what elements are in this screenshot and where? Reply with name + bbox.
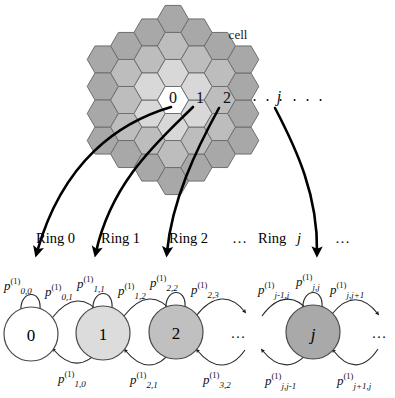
- prob-self-0-sub: 0,0: [20, 286, 32, 296]
- prob-forward-j-jp1-sub: j,j+1: [345, 290, 364, 300]
- prob-backward-2-1-sup: (1): [137, 370, 147, 380]
- arc-backward-3-2: [197, 350, 245, 365]
- prob-backward-jp1-j: p(1)j+1,j: [336, 371, 372, 391]
- prob-forward-jm1-j-sub: j-1,j: [273, 290, 289, 300]
- prob-backward-3-2-sup: (1): [210, 370, 220, 380]
- prob-forward-2-3-sup: (1): [198, 280, 208, 290]
- prob-backward-jp1-j-sup: (1): [344, 371, 354, 381]
- prob-self-2-sup: (1): [157, 273, 167, 283]
- ring-label-2: Ring 2: [169, 230, 208, 246]
- ring-label-j-prefix: Ring: [258, 230, 286, 246]
- prob-backward-j-jm1-sup: (1): [272, 371, 282, 381]
- hex-dots-right: ․ ․ ․: [292, 88, 325, 104]
- chain-node-0-label: 0: [27, 326, 36, 345]
- prob-self-1: p(1)1,1: [76, 274, 105, 294]
- prob-self-j-sup: (1): [303, 272, 313, 282]
- prob-backward-2-1: p(1)2,1: [129, 370, 158, 390]
- prob-self-0-sup: (1): [11, 276, 21, 286]
- prob-backward-1-0-sub: 1,0: [74, 379, 86, 389]
- prob-backward-3-2: p(1)3,2: [202, 370, 231, 390]
- chain-node-j-label: j: [309, 325, 316, 344]
- prob-backward-3-2-sub: 3,2: [218, 380, 231, 390]
- prob-backward-j-jm1-sub: j,j-1: [280, 381, 296, 391]
- prob-forward-0-1: p(1)0,1: [44, 282, 73, 302]
- chain-node-2-label: 2: [172, 324, 181, 343]
- ring-label-trailing-dots: …: [335, 230, 352, 246]
- chain-inter-dots: …: [231, 325, 248, 341]
- arc-backward-jp1-j: [333, 349, 378, 365]
- arc-forward-2-3: [196, 299, 245, 316]
- prob-forward-0-1-sub: 0,1: [61, 292, 72, 302]
- hex-label-j: j: [275, 88, 282, 106]
- hex-label-0: 0: [169, 89, 177, 106]
- hex-label-1: 1: [196, 89, 204, 106]
- prob-forward-2-3: p(1)2,3: [190, 280, 219, 300]
- prob-backward-1-0-sup: (1): [65, 369, 75, 379]
- prob-self-j: p(1)j,j: [295, 272, 320, 292]
- prob-forward-j-jp1-sup: (1): [337, 280, 347, 290]
- arc-forward-j-jp1: [332, 300, 378, 314]
- prob-self-1-sub: 1,1: [93, 284, 104, 294]
- prob-forward-1-2: p(1)1,2: [117, 281, 146, 301]
- prob-forward-1-2-sup: (1): [125, 281, 135, 291]
- ring-label-gap-dots: …: [232, 230, 249, 246]
- prob-backward-2-1-sub: 2,1: [146, 380, 157, 390]
- cell-annotation-label: cell: [229, 27, 248, 42]
- prob-backward-jp1-j-sub: j+1,j: [352, 381, 371, 391]
- prob-forward-0-1-sup: (1): [52, 282, 62, 292]
- ring-markov-figure: 0 1 2 ․ ․ ․ j ․ ․ ․ cell Ring 0 Ring 1 R…: [0, 0, 395, 398]
- prob-backward-j-jm1: p(1)j,j-1: [264, 371, 296, 391]
- ring-label-0: Ring 0: [36, 230, 75, 246]
- chain-trailing-dots: …: [372, 325, 389, 341]
- prob-self-2-sub: 2,2: [166, 283, 178, 293]
- prob-self-2: p(1)2,2: [149, 273, 178, 293]
- prob-forward-2-3-sub: 2,3: [207, 290, 219, 300]
- ring-label-1: Ring 1: [101, 230, 140, 246]
- chain-nodes: 0 1 2 j … …: [4, 305, 389, 361]
- ring-label-j-index: j: [295, 230, 301, 246]
- chain-node-1-label: 1: [99, 325, 108, 344]
- prob-forward-1-2-sub: 1,2: [134, 291, 146, 301]
- prob-forward-jm1-j: p(1)j-1,j: [257, 280, 290, 300]
- prob-forward-jm1-j-sup: (1): [265, 280, 275, 290]
- prob-self-0: p(1)0,0: [3, 276, 32, 296]
- figure-canvas: 0 1 2 ․ ․ ․ j ․ ․ ․ cell Ring 0 Ring 1 R…: [0, 0, 395, 398]
- prob-backward-1-0: p(1)1,0: [57, 369, 86, 389]
- prob-forward-j-jp1: p(1)j,j+1: [329, 280, 364, 300]
- hex-label-2: 2: [223, 89, 231, 106]
- prob-self-1-sup: (1): [84, 274, 94, 284]
- prob-self-j-sub: j,j: [311, 282, 320, 292]
- ring-labels: Ring 0 Ring 1 Ring 2 … Ring j …: [36, 230, 352, 246]
- hex-grid: 0 1 2 ․ ․ ․ j ․ ․ ․ cell: [87, 5, 324, 194]
